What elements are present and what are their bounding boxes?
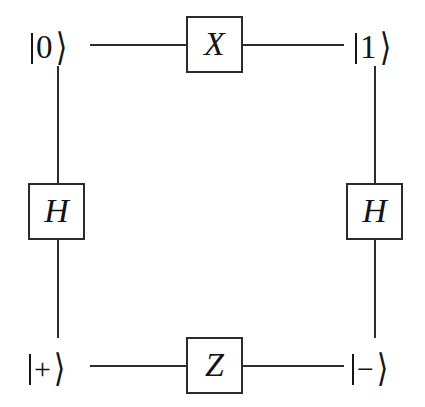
ket-symbol: − — [357, 354, 374, 384]
ket-symbol: 1 — [360, 31, 377, 64]
quantum-state-diagram: X Z H H 0 ⟩ 1 ⟩ + ⟩ − ⟩ — [0, 0, 425, 407]
state-label-ket-one: 1 ⟩ — [355, 26, 392, 64]
wire-left-upper-segment — [57, 66, 59, 183]
wire-top-left-segment — [90, 44, 186, 46]
wire-right-lower-segment — [374, 240, 376, 338]
ket-bar-icon — [355, 33, 357, 64]
ket-bar-icon — [352, 354, 354, 385]
gate-box-h-right[interactable]: H — [346, 183, 403, 240]
ket-bar-icon — [31, 33, 33, 64]
wire-right-upper-segment — [374, 66, 376, 183]
ket-angle-icon: ⟩ — [55, 28, 67, 66]
ket-symbol: + — [34, 354, 51, 384]
gate-box-h-left[interactable]: H — [28, 183, 85, 240]
ket-angle-icon: ⟩ — [54, 349, 66, 387]
state-label-ket-zero: 0 ⟩ — [31, 26, 68, 64]
wire-bottom-right-segment — [243, 365, 344, 367]
gate-label-h-left: H — [44, 194, 69, 228]
gate-label-x: X — [204, 27, 225, 61]
ket-symbol: 0 — [36, 31, 53, 64]
state-label-ket-plus: + ⟩ — [29, 347, 67, 385]
gate-box-x[interactable]: X — [186, 16, 243, 73]
gate-label-h-right: H — [362, 194, 387, 228]
gate-box-z[interactable]: Z — [186, 337, 243, 394]
wire-top-right-segment — [243, 44, 344, 46]
ket-angle-icon: ⟩ — [377, 349, 389, 387]
ket-bar-icon — [29, 354, 31, 385]
wire-bottom-left-segment — [90, 365, 186, 367]
ket-angle-icon: ⟩ — [379, 28, 391, 66]
wire-left-lower-segment — [57, 240, 59, 338]
state-label-ket-minus: − ⟩ — [352, 347, 390, 385]
gate-label-z: Z — [205, 348, 224, 382]
